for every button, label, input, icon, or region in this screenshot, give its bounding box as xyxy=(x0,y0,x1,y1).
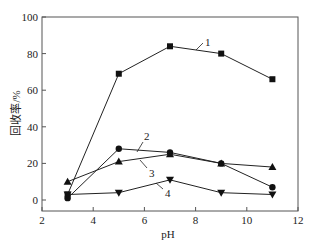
data-point-marker xyxy=(116,71,122,77)
x-axis-label: pH xyxy=(161,228,175,240)
data-point-marker xyxy=(218,51,224,57)
data-point-marker xyxy=(269,76,275,82)
svg-text:3: 3 xyxy=(149,167,155,179)
y-axis-label: 回收率/% xyxy=(9,90,22,135)
y-tick-label: 80 xyxy=(27,48,39,60)
x-tick-label: 10 xyxy=(241,214,253,226)
x-tick-label: 8 xyxy=(193,214,199,226)
line-chart: 24681012020406080100 1234 pH 回收率/% xyxy=(0,0,314,247)
data-point-marker xyxy=(64,178,72,185)
x-tick-label: 4 xyxy=(90,214,96,226)
svg-text:2: 2 xyxy=(144,130,150,142)
x-tick-label: 6 xyxy=(142,214,148,226)
series-labels: 1234 xyxy=(137,36,211,199)
data-point-marker xyxy=(116,146,122,152)
y-tick-label: 0 xyxy=(33,194,39,206)
series-label-1: 1 xyxy=(196,36,211,50)
y-tick-label: 20 xyxy=(27,157,39,169)
x-tick-label: 2 xyxy=(39,214,45,226)
x-tick-label: 12 xyxy=(293,214,304,226)
svg-text:4: 4 xyxy=(165,187,171,199)
y-tick-label: 40 xyxy=(27,121,39,133)
data-series xyxy=(64,43,277,201)
y-tick-label: 60 xyxy=(27,84,39,96)
svg-text:1: 1 xyxy=(205,36,211,48)
series-label-3: 3 xyxy=(140,160,155,179)
data-point-marker xyxy=(268,192,276,199)
data-point-marker xyxy=(167,43,173,49)
series-label-2: 2 xyxy=(137,130,150,152)
series-label-4: 4 xyxy=(156,183,171,199)
y-tick-label: 100 xyxy=(22,11,39,23)
data-point-marker xyxy=(269,184,275,190)
